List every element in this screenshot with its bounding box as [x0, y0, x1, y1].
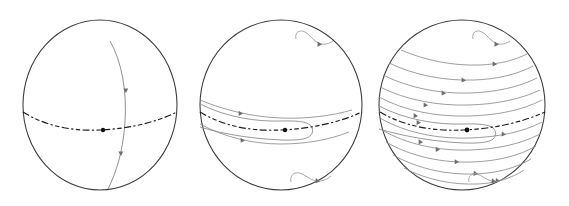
sphere-streamline-figure: [0, 0, 569, 206]
equatorial-fixed-point: [101, 128, 105, 132]
equatorial-fixed-point: [465, 128, 470, 133]
equatorial-fixed-point: [283, 128, 287, 132]
figure-background: [0, 0, 569, 206]
figure-canvas: [0, 0, 569, 206]
